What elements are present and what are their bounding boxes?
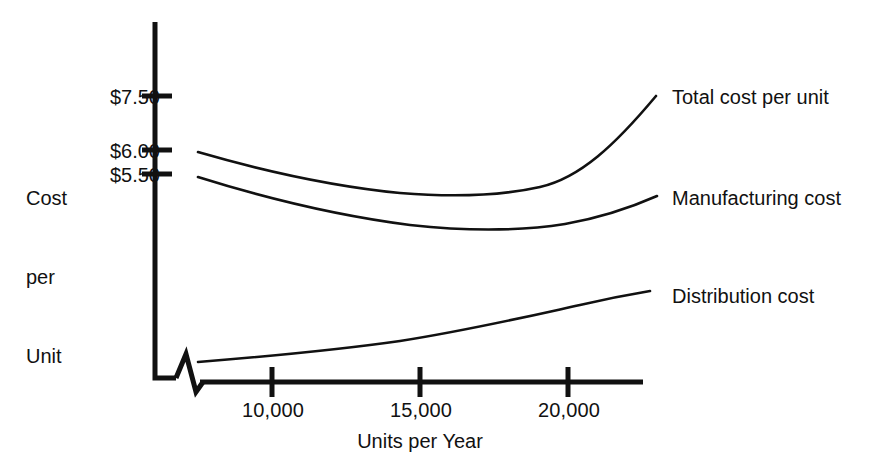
series-label-distribution-cost: Distribution cost	[672, 285, 814, 309]
series-curve-distribution-cost	[198, 291, 650, 362]
series-curve-manufacturing-cost	[198, 177, 657, 229]
y-axis-line	[155, 22, 176, 378]
series-label-manufacturing-cost: Manufacturing cost	[672, 187, 841, 211]
y-axis-title-line-1: Cost	[26, 185, 88, 211]
cost-per-unit-chart: Cost per Unit $7.50 $6.00 $5.50 10,000 1…	[0, 0, 885, 469]
x-axis-title: Units per Year	[320, 430, 520, 454]
series-curve-total-cost	[198, 96, 656, 195]
x-tick-label-15000: 15,000	[381, 399, 461, 423]
y-axis-title-line-3: Unit	[26, 343, 88, 369]
x-tick-label-10000: 10,000	[233, 399, 313, 423]
axis-break-zigzag	[176, 354, 203, 392]
x-tick-label-20000: 20,000	[529, 399, 609, 423]
series-label-total-cost: Total cost per unit	[672, 86, 829, 110]
y-tick-label-5-50: $5.50	[74, 164, 160, 188]
y-axis-title-line-2: per	[26, 264, 88, 290]
y-tick-label-7-50: $7.50	[74, 86, 160, 110]
y-tick-label-6-00: $6.00	[74, 140, 160, 164]
